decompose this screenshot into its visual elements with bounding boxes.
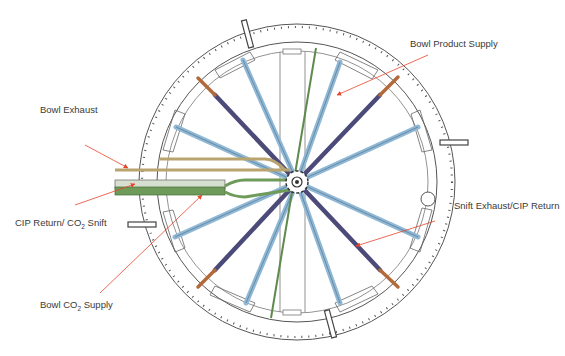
- label-bowl-co2-supply: Bowl CO2 Supply: [40, 299, 113, 312]
- cip-return-text: CIP Return/ CO: [15, 217, 81, 228]
- snift-port: [421, 192, 435, 206]
- bowl-co2-suffix: Supply: [81, 299, 113, 310]
- co2-pipes: [115, 180, 290, 197]
- label-snift-exhaust-cip-return: Snift Exhaust/CIP Return: [454, 200, 559, 211]
- label-bowl-exhaust: Bowl Exhaust: [40, 104, 98, 115]
- center-hub: [286, 171, 308, 193]
- bowl-co2-text: Bowl CO: [40, 299, 77, 310]
- label-bowl-product-supply: Bowl Product Supply: [410, 38, 498, 49]
- label-cip-return-co2-snift: CIP Return/ CO2 Snift: [15, 217, 107, 230]
- cip-return-suffix: Snift: [85, 217, 107, 228]
